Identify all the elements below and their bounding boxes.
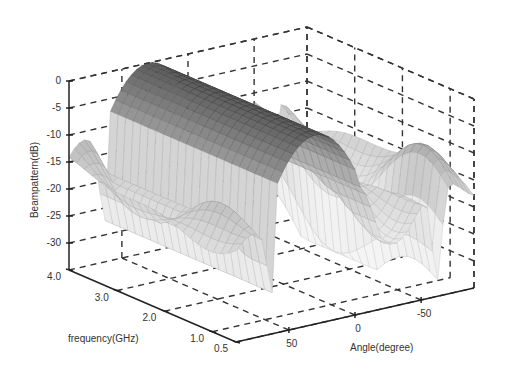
frequency-axis-label: frequency(GHz) [68,333,139,344]
angle-axis-label: Angle(degree) [350,342,413,353]
z-tick-label: -5 [52,102,61,113]
z-tick-label: 0 [55,75,61,86]
beampattern-surface [69,63,474,293]
angle-tick-label: 0 [355,323,361,334]
z-axis-label: Beampattern(dB) [29,142,40,218]
box-edge [307,27,474,99]
angle-tick-label: -50 [417,308,432,319]
z-tick-label: -25 [47,210,62,221]
angle-tick-label: 50 [286,338,298,349]
z-tick-label: -10 [47,129,62,140]
frequency-tick-label: 2.0 [143,312,157,323]
beampattern-3d-surface-plot: Beampattern(dB) frequency(GHz) Angle(deg… [0,0,508,376]
wall-gridline [307,54,474,126]
z-tick-label: -15 [47,156,62,167]
frequency-tick-label: 4.0 [47,271,61,282]
frequency-tick-label: 3.0 [95,292,109,303]
frequency-tick-label: 1.0 [190,333,204,344]
z-tick-label: -20 [47,183,62,194]
frequency-tick-label: 0.5 [214,343,228,354]
z-tick-label: -30 [47,237,62,248]
